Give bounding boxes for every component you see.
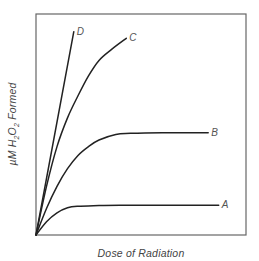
plot-frame	[36, 14, 246, 235]
curve-a	[36, 205, 219, 235]
curve-label-c: C	[129, 33, 136, 43]
x-axis-label: Dose of Radiation	[98, 247, 185, 259]
chart: µM H2O2 Formed Dose of Radiation D C B A	[0, 0, 259, 261]
curve-label-a: A	[222, 200, 229, 210]
y-axis-label: µM H2O2 Formed	[6, 82, 20, 165]
curves-group	[36, 32, 219, 235]
curve-label-d: D	[77, 27, 84, 37]
curve-d	[36, 32, 74, 235]
curve-b	[36, 133, 208, 235]
curve-label-b: B	[211, 128, 218, 138]
